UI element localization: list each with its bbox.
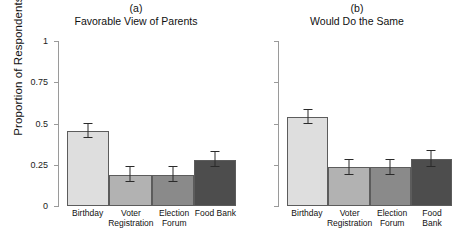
panel-b-tag: (b) — [262, 2, 452, 15]
y-tick-0 — [274, 206, 278, 207]
bar-slot — [411, 41, 452, 206]
panel-a-bars — [59, 41, 236, 206]
panel-a: (a) Favorable View of Parents 10.750.50.… — [36, 0, 236, 247]
bar-slot — [194, 41, 236, 206]
y-tick-1: 1 — [54, 41, 58, 42]
error-bar — [390, 160, 391, 175]
error-bar-cap-bottom — [303, 123, 312, 124]
panel-a-tag: (a) — [36, 2, 236, 15]
bar-slot — [152, 41, 194, 206]
error-bar-cap-top — [344, 159, 353, 160]
error-bar-cap-top — [126, 166, 135, 167]
panel-b-plot-area — [278, 41, 452, 206]
x-tick-label: Voter Registration — [327, 208, 372, 228]
panel-b-bars — [279, 41, 452, 206]
y-tick-0: 0 — [54, 206, 58, 207]
x-tick-label: Birthday — [287, 208, 327, 228]
error-bar-cap-top — [427, 150, 436, 151]
error-bar-cap-bottom — [386, 174, 395, 175]
y-tick-0.75 — [274, 82, 278, 83]
error-bar-cap-top — [84, 123, 93, 124]
error-bar-cap-top — [303, 109, 312, 110]
y-tick-0.25: 0.25 — [54, 165, 58, 166]
error-bar — [348, 160, 349, 175]
panel-a-x-tick-labels: BirthdayVoter RegistrationElection Forum… — [59, 208, 236, 228]
error-bar — [431, 151, 432, 168]
y-tick-label-0: 0 — [43, 201, 48, 211]
y-tick-0.5 — [274, 124, 278, 125]
panel-a-title: (a) Favorable View of Parents — [36, 2, 236, 28]
error-bar — [88, 124, 89, 139]
bar-slot — [370, 41, 411, 206]
y-tick-label-0.75: 0.75 — [30, 77, 48, 87]
panel-a-caption: Favorable View of Parents — [36, 15, 236, 28]
figure-container: Proportion of Respondents (a) Favorable … — [0, 0, 453, 247]
error-bar — [172, 167, 173, 182]
x-tick-label: Election Forum — [372, 208, 412, 228]
error-bar-cap-bottom — [84, 137, 93, 138]
y-tick-0.25 — [274, 165, 278, 166]
y-tick-label-0.25: 0.25 — [30, 160, 48, 170]
error-bar-cap-top — [210, 151, 219, 152]
panel-b-x-tick-labels: BirthdayVoter RegistrationElection Forum… — [279, 208, 452, 228]
panel-b-title: (b) Would Do the Same — [262, 2, 452, 28]
error-bar-cap-top — [386, 159, 395, 160]
y-tick-label-1: 1 — [43, 36, 48, 46]
panel-b: (b) Would Do the Same BirthdayVoter Regi… — [262, 0, 452, 247]
error-bar-cap-bottom — [168, 181, 177, 182]
y-tick-1 — [274, 41, 278, 42]
bar-slot — [67, 41, 109, 206]
y-tick-0.5: 0.5 — [54, 124, 58, 125]
bar-slot — [328, 41, 369, 206]
y-tick-0.75: 0.75 — [54, 82, 58, 83]
y-tick-label-0.5: 0.5 — [35, 119, 48, 129]
bar-slot — [287, 41, 328, 206]
error-bar-cap-bottom — [210, 166, 219, 167]
x-tick-label: Food Bank — [412, 208, 452, 228]
error-bar — [130, 167, 131, 182]
x-tick-label: Food Bank — [195, 208, 236, 228]
error-bar-cap-bottom — [344, 174, 353, 175]
bar-birthday[interactable] — [67, 131, 109, 206]
error-bar — [214, 152, 215, 167]
y-axis-title: Proportion of Respondents — [12, 0, 24, 146]
bar-slot — [109, 41, 151, 206]
panel-a-plot-area: 10.750.50.250 — [58, 41, 236, 206]
error-bar-cap-bottom — [427, 166, 436, 167]
error-bar-cap-top — [168, 166, 177, 167]
bar-birthday[interactable] — [287, 117, 328, 206]
x-tick-label: Voter Registration — [108, 208, 153, 228]
error-bar-cap-bottom — [126, 181, 135, 182]
x-tick-label: Birthday — [67, 208, 108, 228]
panel-b-caption: Would Do the Same — [262, 15, 452, 28]
x-tick-label: Election Forum — [154, 208, 195, 228]
